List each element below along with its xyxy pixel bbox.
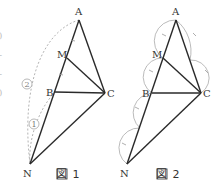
margin-mark: -	[0, 69, 2, 79]
tick-mark	[193, 33, 196, 36]
figure-1: 2 1 A M B C N 図 1	[22, 6, 115, 181]
tick-mark	[122, 143, 126, 145]
segment-NC	[30, 93, 105, 164]
arc-label-1: 1	[32, 120, 37, 129]
point-label-N: N	[120, 168, 129, 179]
figure-1-caption: 図 1	[56, 168, 81, 181]
arc-label-2: 2	[25, 80, 30, 89]
figure-2: A M B C N 図 2	[119, 6, 211, 181]
segment-BC	[55, 92, 105, 93]
segment-AC	[79, 20, 105, 93]
point-label-A: A	[171, 6, 180, 17]
margin-mark: )	[0, 87, 2, 97]
segment-AN	[127, 20, 176, 164]
tick-mark	[135, 107, 139, 109]
margin-mark: )	[0, 30, 2, 40]
point-label-C: C	[203, 88, 211, 99]
point-label-B: B	[46, 87, 53, 98]
point-label-N: N	[23, 168, 32, 179]
point-label-C: C	[107, 88, 115, 99]
tick-mark	[149, 70, 153, 72]
point-label-B: B	[142, 88, 149, 99]
margin-mark: -	[0, 50, 2, 60]
figure-2-caption: 図 2	[156, 168, 181, 181]
geometry-diagram: ) - - ) 2 1 A M B C N 図 1	[0, 0, 219, 193]
point-label-M: M	[57, 49, 67, 60]
left-margin-marks: ) - - )	[0, 30, 2, 97]
tick-mark	[162, 34, 166, 36]
segment-NC	[127, 93, 201, 164]
point-label-A: A	[74, 6, 83, 17]
point-label-M: M	[152, 49, 162, 60]
